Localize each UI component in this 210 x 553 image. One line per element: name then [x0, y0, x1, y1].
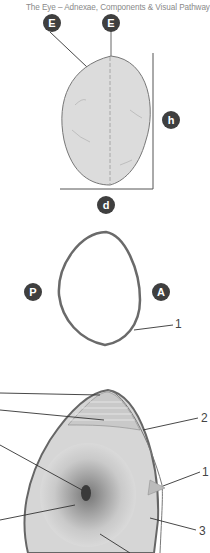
diameter-badge: d — [97, 196, 115, 214]
equator-badge-left: E — [43, 14, 61, 32]
anterior-pole-badge: A — [152, 283, 170, 301]
callout-number-2: 2 — [201, 411, 208, 425]
callout-number-1-bottom: 1 — [202, 465, 209, 479]
equator-badge-center: E — [102, 14, 120, 32]
lens-illustration — [0, 0, 210, 553]
lens-outer-view — [50, 30, 153, 189]
posterior-pole-badge: P — [24, 283, 42, 301]
callout-number-1-middle: 1 — [175, 317, 182, 331]
lens-detailed-section — [0, 390, 200, 553]
height-badge: h — [162, 111, 180, 129]
callout-number-3: 3 — [199, 524, 206, 538]
